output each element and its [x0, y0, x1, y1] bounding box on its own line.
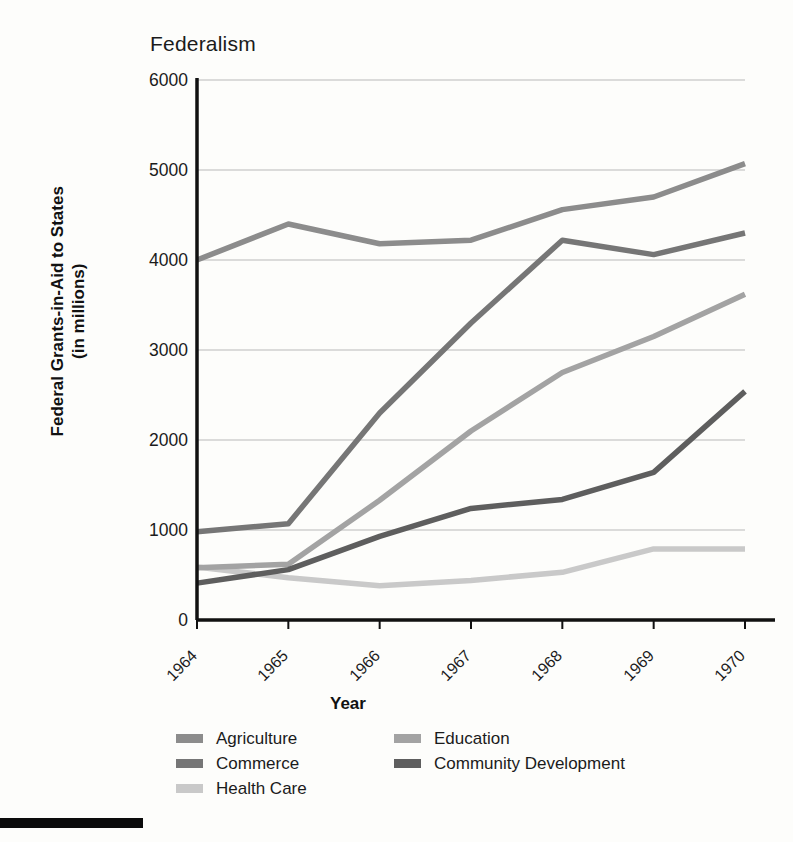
legend-swatch: [176, 784, 203, 793]
legend-label: Education: [434, 729, 510, 749]
legend-label: Health Care: [216, 779, 307, 799]
legend-column: EducationCommunity Development: [394, 726, 625, 776]
plot-area: [0, 0, 793, 842]
legend-swatch: [176, 759, 203, 768]
footer-rule: [0, 818, 143, 828]
legend-swatch: [176, 734, 203, 743]
x-axis-title: Year: [330, 694, 366, 714]
legend-item: Community Development: [394, 751, 625, 776]
legend-swatch: [394, 759, 421, 768]
series-line: [197, 391, 745, 583]
legend-label: Community Development: [434, 754, 625, 774]
series-line: [197, 233, 745, 532]
legend-swatch: [394, 734, 421, 743]
series-line: [197, 164, 745, 260]
legend-label: Agriculture: [216, 729, 297, 749]
legend-item: Agriculture: [176, 726, 307, 751]
legend-column: AgricultureCommerceHealth Care: [176, 726, 307, 801]
chart-figure: Federalism Federal Grants-in-Aid to Stat…: [0, 0, 793, 842]
legend-label: Commerce: [216, 754, 299, 774]
legend-item: Commerce: [176, 751, 307, 776]
legend-item: Health Care: [176, 776, 307, 801]
series-line: [197, 549, 745, 586]
legend-item: Education: [394, 726, 625, 751]
